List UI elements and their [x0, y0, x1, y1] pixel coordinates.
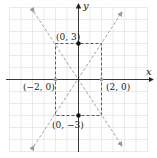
label-top-point: (0, 3): [56, 32, 80, 42]
point-left: [54, 78, 58, 82]
label-left-point: (−2, 0): [23, 82, 55, 92]
vertex-point-bottom: [76, 113, 80, 117]
x-axis-label: x: [146, 66, 152, 77]
point-right: [100, 78, 104, 82]
y-axis-label: y: [82, 0, 89, 11]
label-bottom-point: (0, −3): [52, 120, 84, 130]
label-right-point: (2, 0): [106, 82, 130, 92]
coordinate-plane: x y (0, 3) (0, −3) (−2, 0) (2, 0): [0, 0, 157, 158]
